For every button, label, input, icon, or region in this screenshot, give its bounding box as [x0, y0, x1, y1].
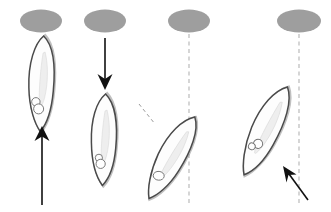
source-ellipse-4 — [277, 10, 321, 33]
panel-4 — [231, 10, 321, 207]
figure-canvas — [0, 0, 331, 212]
stimulus-arrow-down — [98, 38, 113, 90]
stimulus-arrow-diagonal — [283, 166, 308, 200]
cell-4 — [231, 80, 301, 182]
source-ellipse-3 — [168, 10, 210, 33]
panel-1 — [20, 10, 62, 206]
source-ellipse-1 — [20, 10, 62, 33]
stimulus-arrow-up — [35, 126, 50, 205]
cell-long-axis-dashed-3 — [139, 104, 155, 124]
stimulus-arrow-diagonal-head — [283, 166, 297, 183]
cell-orientation-diagram — [0, 0, 331, 212]
cell-1-organelle-b — [33, 104, 43, 114]
cell-1 — [27, 35, 56, 133]
source-ellipse-2 — [84, 10, 126, 33]
cell-2 — [90, 93, 119, 187]
panel-2 — [84, 10, 126, 187]
cell-2-organelle-b — [96, 159, 106, 169]
cell-3 — [137, 110, 207, 206]
panel-3 — [137, 10, 210, 207]
